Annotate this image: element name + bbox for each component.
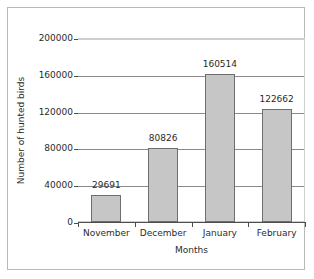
y-axis-tick-label: 200000 [39, 34, 73, 43]
x-axis-category-label: December [140, 229, 187, 238]
x-axis-tick-mark [248, 223, 249, 227]
y-axis-tick-label: 40000 [44, 181, 73, 190]
bar-series: 2969180826160514122662 [78, 38, 305, 222]
y-axis-tick-label: 0 [67, 218, 73, 227]
bar [205, 74, 235, 222]
chart-figure: 04000080000120000160000200000 2969180826… [7, 7, 305, 270]
bar-value-label: 122662 [259, 95, 293, 104]
x-axis-category-label: February [257, 229, 297, 238]
x-axis-tick-mark [78, 223, 79, 227]
y-axis-tick-label: 80000 [44, 144, 73, 153]
y-axis-tick-label: 160000 [39, 71, 73, 80]
bar [91, 195, 121, 222]
y-axis-tick-label: 120000 [39, 108, 73, 117]
bar [262, 109, 292, 222]
x-axis-category-labels: NovemberDecemberJanuaryFebruary [78, 229, 305, 243]
x-axis-tick-mark [192, 223, 193, 227]
x-axis-category-label: January [203, 229, 237, 238]
x-axis-title: Months [78, 246, 305, 255]
x-axis-tick-mark [135, 223, 136, 227]
bar [148, 148, 178, 222]
y-axis-tick-labels: 04000080000120000160000200000 [28, 38, 73, 223]
bar-value-label: 80826 [149, 134, 178, 143]
x-axis-category-label: November [83, 229, 130, 238]
bar-value-label: 160514 [203, 60, 237, 69]
bar-value-label: 29691 [92, 181, 121, 190]
y-axis-title: Number of hunted birds [17, 51, 26, 211]
x-axis-tick-mark [305, 223, 306, 227]
